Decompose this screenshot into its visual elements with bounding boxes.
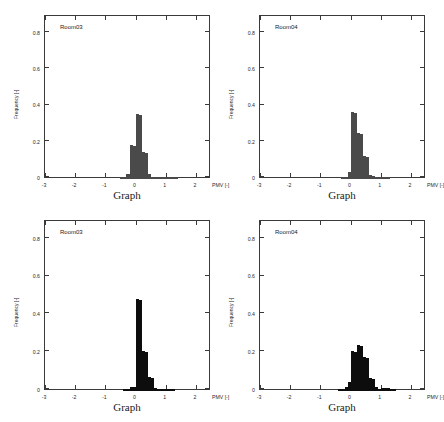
x-tick-label: 0 (340, 182, 360, 188)
x-tick-label: 1 (155, 394, 175, 400)
x-axis-title: Graph (44, 189, 210, 201)
y-tick-label: 0.8 (231, 236, 255, 242)
y-tick-label: 0 (16, 387, 40, 393)
x-tick-label: -2 (64, 394, 84, 400)
room-label: Room03 (60, 229, 83, 235)
x-tick-label: 2 (185, 182, 205, 188)
plot-frame (259, 220, 425, 390)
room-label: Room04 (275, 229, 298, 235)
plot-frame (259, 15, 425, 178)
histogram-bar (387, 177, 390, 179)
y-axis-label: Frequency [-] (13, 298, 19, 327)
x-axis-unit-label: PMV [-] (427, 182, 444, 188)
x-tick-label: -1 (309, 182, 329, 188)
x-axis-unit-label: PMV [-] (427, 394, 444, 400)
x-tick-label: -1 (309, 394, 329, 400)
x-tick-label: -2 (279, 182, 299, 188)
histogram-bar (393, 389, 396, 391)
y-axis-label: Frequency [-] (228, 89, 234, 118)
x-tick-label: -1 (94, 182, 114, 188)
x-tick-label: -1 (94, 394, 114, 400)
x-tick-label: 1 (370, 394, 390, 400)
y-tick-label: 0.8 (16, 236, 40, 242)
x-tick-label: -3 (249, 394, 269, 400)
y-tick-label: 0.8 (231, 30, 255, 36)
room-label: Room03 (60, 24, 83, 30)
y-tick-label: 0.2 (231, 139, 255, 145)
y-tick-label: 0.4 (231, 102, 255, 108)
histogram-bars (45, 221, 211, 391)
x-tick-label: 2 (400, 394, 420, 400)
x-tick-label: 0 (125, 394, 145, 400)
y-tick-label: 0.6 (16, 273, 40, 279)
histogram-bars (260, 16, 426, 179)
y-axis-label: Frequency [-] (228, 298, 234, 327)
y-tick-label: 0.4 (16, 311, 40, 317)
panel-bottom-left: -3-2-101200.20.40.60.8Room03Frequency [-… (0, 210, 220, 422)
y-tick-label: 0.4 (231, 311, 255, 317)
panel-bottom-right: -3-2-101200.20.40.60.8Room04Frequency [-… (215, 210, 435, 422)
x-tick-label: 2 (400, 182, 420, 188)
x-tick-label: -2 (64, 182, 84, 188)
panel-top-right: -3-2-101200.20.40.60.8Room04Frequency [-… (215, 0, 435, 212)
y-tick-label: 0.4 (16, 102, 40, 108)
histogram-bar (175, 177, 178, 179)
histogram-bar (172, 389, 175, 391)
histogram-bars (260, 221, 426, 391)
y-axis-label: Frequency [-] (13, 89, 19, 118)
x-axis-title: Graph (44, 401, 210, 413)
x-tick-label: 2 (185, 394, 205, 400)
plot-frame (44, 220, 210, 390)
y-tick-label: 0.8 (16, 30, 40, 36)
x-tick-label: -3 (249, 182, 269, 188)
y-tick-label: 0 (16, 175, 40, 181)
x-tick-label: 0 (125, 182, 145, 188)
x-tick-label: -3 (34, 182, 54, 188)
y-tick-label: 0.2 (16, 139, 40, 145)
x-tick-label: 0 (340, 394, 360, 400)
panel-top-left: -3-2-101200.20.40.60.8Room03Frequency [-… (0, 0, 220, 212)
plot-frame (44, 15, 210, 178)
y-tick-label: 0.6 (231, 66, 255, 72)
y-tick-label: 0.2 (16, 349, 40, 355)
x-tick-label: -2 (279, 394, 299, 400)
x-tick-label: -3 (34, 394, 54, 400)
x-axis-title: Graph (259, 189, 425, 201)
y-tick-label: 0.2 (231, 349, 255, 355)
y-tick-label: 0.6 (231, 273, 255, 279)
x-axis-title: Graph (259, 401, 425, 413)
y-tick-label: 0 (231, 175, 255, 181)
x-tick-label: 1 (370, 182, 390, 188)
y-tick-label: 0 (231, 387, 255, 393)
histogram-bars (45, 16, 211, 179)
y-tick-label: 0.6 (16, 66, 40, 72)
room-label: Room04 (275, 24, 298, 30)
x-tick-label: 1 (155, 182, 175, 188)
